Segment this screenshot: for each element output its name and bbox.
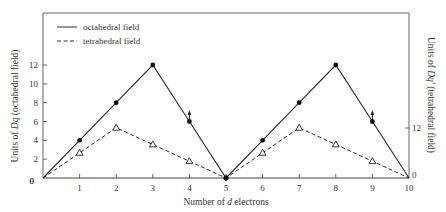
y-tick-label: 6 (34, 117, 39, 127)
x-tick-label: 2 (114, 183, 119, 193)
data-point-octahedral (150, 63, 155, 68)
y-tick-label: 2 (34, 154, 39, 164)
x-axis-ticks: 123456789100 (30, 174, 415, 193)
x-axis-label: Number of d electrons (183, 197, 269, 207)
x-tick-label: 8 (334, 183, 339, 193)
data-point-octahedral (333, 63, 338, 68)
data-point-tetrahedral (76, 149, 83, 155)
y-tick-label: 4 (34, 135, 39, 145)
data-point-tetrahedral (259, 149, 266, 155)
data-point-tetrahedral (186, 158, 193, 164)
data-point-tetrahedral (113, 124, 120, 130)
y-tick-label: 8 (34, 98, 39, 108)
x-tick-label: 9 (370, 183, 375, 193)
right-tick-0: 0 (412, 170, 417, 180)
legend-tetrahedral: tetrahedral field (83, 36, 141, 46)
x-tick-label: 6 (260, 183, 265, 193)
data-point-octahedral (260, 138, 265, 143)
data-point-octahedral (114, 100, 119, 105)
x-tick-label: 3 (151, 183, 156, 193)
y-tick-label: 12 (29, 60, 38, 70)
x-tick-label: 7 (297, 183, 302, 193)
data-point-tetrahedral (369, 158, 376, 164)
legend: octahedral field tetrahedral field (57, 22, 141, 46)
chart-canvas: 024681012 123456789100 12 0 octahedral f… (0, 0, 446, 212)
y-tick-label: 10 (29, 79, 39, 89)
x-tick-label: 0 (30, 176, 35, 186)
data-point-octahedral (297, 100, 302, 105)
y-axis-right-label: Units of Dq' (tetrahedral field) (425, 37, 436, 153)
series-tetrahedral-field (43, 124, 409, 178)
series-octahedral-field (43, 63, 409, 181)
y-axis-right-ticks: 12 0 (405, 123, 421, 180)
data-point-tetrahedral (332, 141, 339, 147)
x-tick-label: 10 (405, 183, 415, 193)
legend-octahedral: octahedral field (83, 22, 140, 32)
data-point-tetrahedral (296, 124, 303, 130)
x-tick-label: 5 (224, 183, 229, 193)
right-tick-12: 12 (412, 123, 421, 133)
x-tick-label: 1 (77, 183, 82, 193)
y-axis-left-ticks: 024681012 (29, 60, 47, 186)
y-axis-left-label: Units of Dq (octahedral field) (10, 50, 21, 163)
x-tick-label: 4 (187, 183, 192, 193)
data-point-octahedral (77, 138, 82, 143)
